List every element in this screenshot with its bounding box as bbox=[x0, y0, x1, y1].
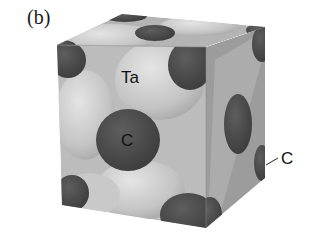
ta-label: Ta bbox=[121, 68, 140, 87]
cube-right-face bbox=[198, 26, 272, 233]
c-edge-leader-line bbox=[266, 158, 278, 165]
c-edge-label: C bbox=[281, 149, 293, 168]
c-center-label: C bbox=[121, 131, 133, 150]
c-atom-edge bbox=[254, 145, 270, 181]
crystal-structure-diagram: Ta C C bbox=[0, 0, 312, 239]
